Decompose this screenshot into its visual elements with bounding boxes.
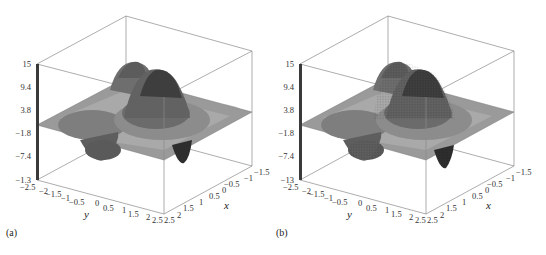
svg-text:−2.5: −2.5 <box>20 182 35 192</box>
svg-text:−2.5: −2.5 <box>283 182 298 192</box>
svg-text:1.5: 1.5 <box>446 203 457 213</box>
surface <box>300 62 514 168</box>
svg-text:1: 1 <box>462 197 466 207</box>
svg-text:−0.5: −0.5 <box>332 197 347 207</box>
svg-text:0.5: 0.5 <box>103 203 114 213</box>
svg-text:9.4: 9.4 <box>283 82 294 92</box>
svg-text:1.5: 1.5 <box>391 209 402 219</box>
panel-label-a: (a) <box>6 227 17 239</box>
svg-text:0.5: 0.5 <box>366 203 377 213</box>
surface-plot-b: 15 9.4 3.8 −1.8 −7.4 −13 −2.5 −2 −1.5 −1… <box>273 0 546 255</box>
svg-text:−7.4: −7.4 <box>279 151 295 161</box>
x-axis-label: x <box>485 199 491 211</box>
svg-text:2: 2 <box>177 210 181 220</box>
svg-text:0.5: 0.5 <box>472 191 483 201</box>
svg-text:2.5: 2.5 <box>415 215 426 225</box>
svg-text:1: 1 <box>199 197 203 207</box>
surface-plot-a: 15 9.4 3.8 −1.8 −7.4 −1.3 −2.5 −2 −1.5 −… <box>0 0 273 255</box>
svg-text:−1: −1 <box>506 173 515 183</box>
svg-text:0: 0 <box>358 198 362 208</box>
colorbar <box>36 64 39 180</box>
svg-text:−0.5: −0.5 <box>487 179 502 189</box>
surface <box>37 62 252 163</box>
panel-a: 15 9.4 3.8 −1.8 −7.4 −1.3 −2.5 −2 −1.5 −… <box>0 0 273 255</box>
y-axis-label: y <box>83 208 89 220</box>
svg-text:−1.5: −1.5 <box>309 189 324 199</box>
svg-text:3.8: 3.8 <box>283 105 294 115</box>
svg-text:2: 2 <box>146 212 150 222</box>
x-axis-ticks: 2.5 2 1.5 1 0.5 0 −0.5 −1 −1.5 <box>427 167 531 225</box>
svg-text:−1.8: −1.8 <box>16 128 31 138</box>
svg-text:2: 2 <box>409 212 413 222</box>
svg-text:−0.5: −0.5 <box>224 179 239 189</box>
y-axis-ticks: −2.5 −2 −1.5 −1 −0.5 0 0.5 1 1.5 2 2.5 <box>283 182 426 225</box>
svg-text:2: 2 <box>440 210 444 220</box>
svg-text:−1.5: −1.5 <box>46 189 61 199</box>
panel-b: 15 9.4 3.8 −1.8 −7.4 −13 −2.5 −2 −1.5 −1… <box>273 0 546 255</box>
svg-text:2.5: 2.5 <box>164 215 175 225</box>
x-axis-label: x <box>223 199 229 211</box>
svg-text:−7.4: −7.4 <box>16 151 32 161</box>
svg-text:3.8: 3.8 <box>20 105 31 115</box>
svg-text:2.5: 2.5 <box>427 215 438 225</box>
y-axis-label: y <box>346 208 352 220</box>
z-axis-ticks: 15 9.4 3.8 −1.8 −7.4 −1.3 <box>16 59 32 185</box>
svg-text:1.5: 1.5 <box>128 209 139 219</box>
svg-text:−0.5: −0.5 <box>69 197 84 207</box>
svg-text:−1.8: −1.8 <box>279 128 294 138</box>
svg-text:15: 15 <box>23 59 32 69</box>
y-axis-ticks: −2.5 −2 −1.5 −1 −0.5 0 0.5 1 1.5 2 2.5 <box>20 182 163 225</box>
svg-text:0.5: 0.5 <box>209 191 220 201</box>
z-axis-ticks: 15 9.4 3.8 −1.8 −7.4 −13 <box>279 59 295 185</box>
svg-text:−1.5: −1.5 <box>516 167 531 177</box>
x-axis-ticks: 2.5 2 1.5 1 0.5 0 −0.5 −1 −1.5 <box>164 167 269 225</box>
panel-label-b: (b) <box>276 227 288 239</box>
svg-text:1.5: 1.5 <box>183 203 194 213</box>
svg-text:15: 15 <box>286 59 295 69</box>
svg-text:−1: −1 <box>244 173 253 183</box>
svg-text:1: 1 <box>122 205 126 215</box>
svg-text:1: 1 <box>385 205 389 215</box>
svg-text:−1.5: −1.5 <box>254 167 269 177</box>
colorbar <box>299 64 302 180</box>
svg-text:2.5: 2.5 <box>152 215 163 225</box>
svg-text:9.4: 9.4 <box>20 82 31 92</box>
svg-text:0: 0 <box>95 198 99 208</box>
